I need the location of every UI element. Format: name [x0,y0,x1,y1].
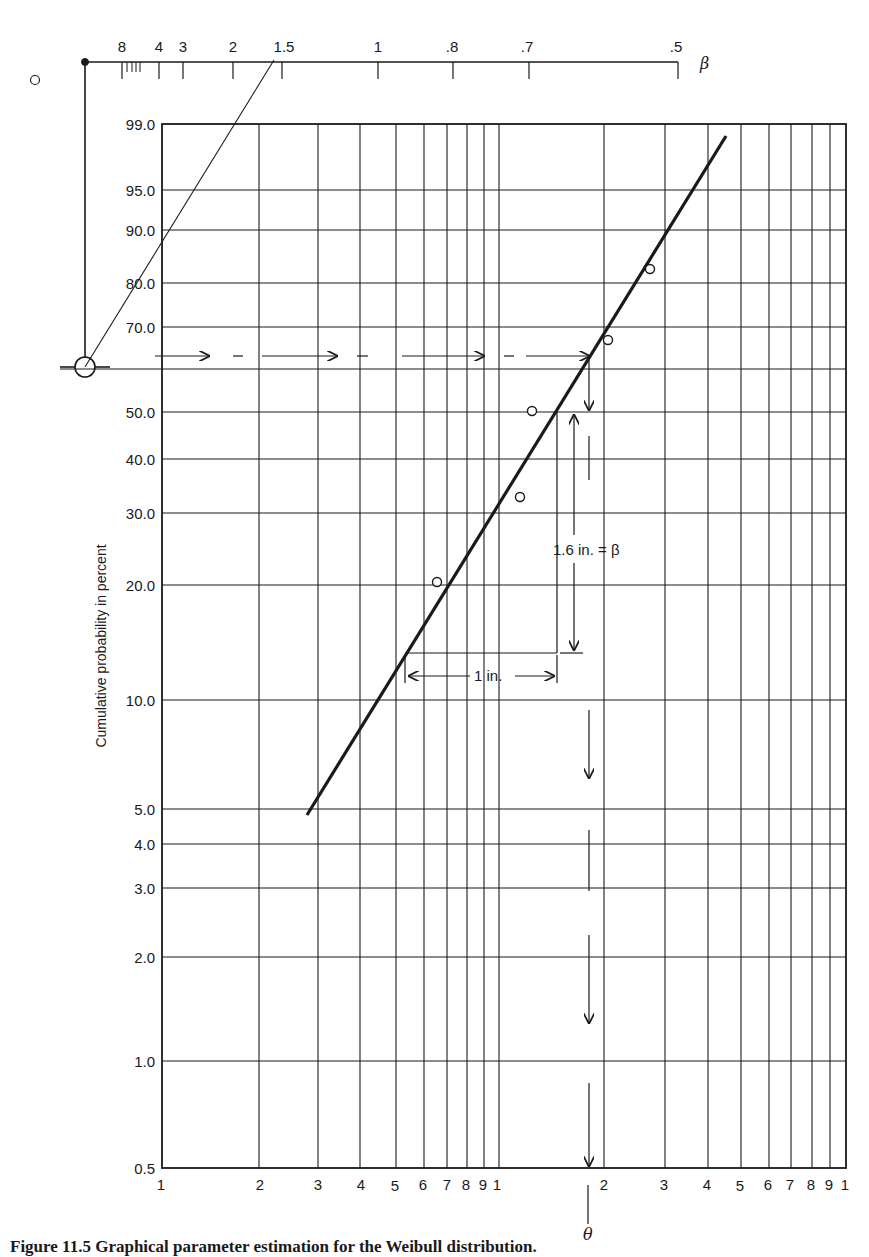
svg-text:9: 9 [825,1176,833,1193]
svg-text:6: 6 [764,1176,772,1193]
y-tick-20: 20.0 [126,577,155,594]
y-tick-70: 70.0 [126,319,155,336]
y-tick-3: 3.0 [134,880,155,897]
data-point [516,493,525,502]
chart-frame [162,124,846,1168]
beta-symbol: β [699,54,709,73]
beta-tick-8: 8 [118,38,126,55]
beta-tick-1: 1 [374,38,382,55]
y-tick-95: 95.0 [126,182,155,199]
y-axis-title: Cumulative probability in percent [93,544,109,747]
origin-marker [60,60,274,377]
chart-grid [60,124,846,1168]
svg-text:1: 1 [493,1176,501,1193]
y-tick-80: 80.0 [126,275,155,292]
beta-tick-1-5: 1.5 [274,38,295,55]
theta-arrow-line [588,360,589,1224]
beta-tick-0-8: .8 [446,38,459,55]
data-points [433,265,655,587]
figure-caption: Figure 11.5 Graphical parameter estimati… [10,1237,537,1257]
svg-text:4: 4 [703,1176,711,1193]
y-tick-30: 30.0 [126,505,155,522]
data-point [604,336,613,345]
svg-text:5: 5 [736,1177,744,1194]
y-tick-90: 90.0 [126,222,155,239]
data-point [646,265,655,274]
beta-tick-3: 3 [179,38,187,55]
svg-text:2: 2 [600,1176,608,1193]
vertical-dimension-label: 1.6 in. = β [553,541,620,558]
svg-text:9: 9 [479,1176,487,1193]
svg-text:8: 8 [807,1176,815,1193]
y-tick-4: 4.0 [134,836,155,853]
fit-line [307,136,726,815]
horizontal-dimension-label: 1 in. [474,667,502,684]
beta-tick-4: 4 [155,38,163,55]
theta-symbol: θ [583,1225,593,1244]
y-tick-5: 5.0 [134,801,155,818]
y-tick-1: 1.0 [134,1053,155,1070]
data-point [433,578,442,587]
stray-circle-mark [31,76,40,85]
beta-scale [82,59,679,359]
y-tick-2: 2.0 [134,949,155,966]
svg-text:1: 1 [157,1176,165,1193]
svg-text:5: 5 [391,1177,399,1194]
svg-text:3: 3 [660,1176,668,1193]
x-axis-labels: 1 2 3 4 5 6 7 8 9 1 2 3 4 5 6 7 8 9 1 [157,1176,849,1194]
y-tick-0-5: 0.5 [134,1160,155,1177]
svg-text:1: 1 [841,1176,849,1193]
svg-text:8: 8 [462,1176,470,1193]
y-tick-10: 10.0 [126,692,155,709]
data-point [528,407,537,416]
svg-text:2: 2 [256,1176,264,1193]
y-tick-99: 99.0 [126,116,155,133]
svg-text:4: 4 [357,1176,365,1193]
beta-tick-0-7: .7 [521,38,534,55]
svg-text:3: 3 [314,1176,322,1193]
y-tick-50: 50.0 [126,404,155,421]
svg-text:6: 6 [419,1176,427,1193]
y-tick-40: 40.0 [126,451,155,468]
beta-tick-2: 2 [229,38,237,55]
svg-text:7: 7 [786,1176,794,1193]
svg-text:7: 7 [443,1176,451,1193]
beta-tick-0-5: .5 [670,38,683,55]
